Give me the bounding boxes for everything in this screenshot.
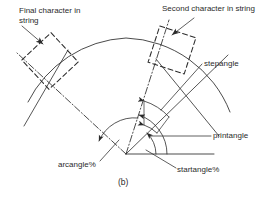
label-startangle: startangle% [177, 165, 219, 175]
final-character-leader-line [22, 26, 43, 44]
arc-left-boundary-ray [24, 50, 68, 126]
arcangle-leader-line [100, 140, 119, 161]
second-character-box [148, 26, 196, 74]
second-character-leader-line [172, 18, 194, 35]
stepangle-connector-ticks [144, 101, 169, 133]
label-printangle: printangle [213, 131, 248, 141]
arc-right-boundary-ray [156, 59, 219, 136]
label-final-character: Final character in string [19, 6, 99, 25]
arcangle-arc-indicator [99, 118, 138, 141]
startangle-leader-line [146, 150, 176, 168]
stepangle-leader-line [161, 64, 202, 110]
label-arcangle: arcangle% [58, 160, 96, 170]
outer-text-arc [28, 38, 230, 112]
figure-caption: (b) [118, 178, 128, 188]
diagram-canvas [0, 0, 278, 198]
label-second-character: Second character in string [162, 4, 272, 14]
label-stepangle: stepangle [204, 59, 239, 69]
stepangle-arc-indicator-outer [144, 101, 169, 117]
figure-container: Final character in string Second charact… [0, 0, 278, 198]
printangle-arc-indicator [139, 115, 167, 154]
